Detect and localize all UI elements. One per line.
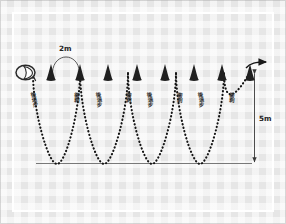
dimension-label-2m: 2m bbox=[59, 44, 72, 53]
drill-illustration bbox=[0, 0, 286, 224]
path-label-6: 衝刺 bbox=[176, 92, 183, 103]
path-label-4: 衝刺 bbox=[125, 92, 132, 103]
path-label-7: 後退步 bbox=[197, 91, 204, 107]
cone-marker-6 bbox=[189, 64, 198, 81]
path-label-8: 衝刺 bbox=[228, 92, 235, 103]
path-label-5: 後退步 bbox=[146, 91, 153, 107]
cone-marker-1 bbox=[46, 64, 55, 81]
exit-arrow-right bbox=[246, 62, 266, 68]
span-arc-2m bbox=[53, 57, 80, 72]
cone-marker-4 bbox=[132, 64, 141, 81]
cone-marker-3 bbox=[103, 64, 112, 81]
movement-path bbox=[33, 72, 250, 164]
diagram-canvas: 2m 5m 後退步 衝刺 後退步 衝刺 後退步 衝刺 後退步 衝刺 bbox=[0, 0, 286, 224]
path-label-1: 後退步 bbox=[30, 91, 38, 107]
cone-marker-2 bbox=[75, 64, 84, 81]
path-label-3: 後退步 bbox=[95, 91, 102, 107]
cone-marker-5 bbox=[160, 64, 169, 81]
start-oval-marker bbox=[16, 65, 36, 80]
cone-marker-7 bbox=[217, 64, 226, 81]
dimension-label-5m: 5m bbox=[259, 114, 272, 123]
path-label-2: 衝刺 bbox=[73, 92, 80, 103]
